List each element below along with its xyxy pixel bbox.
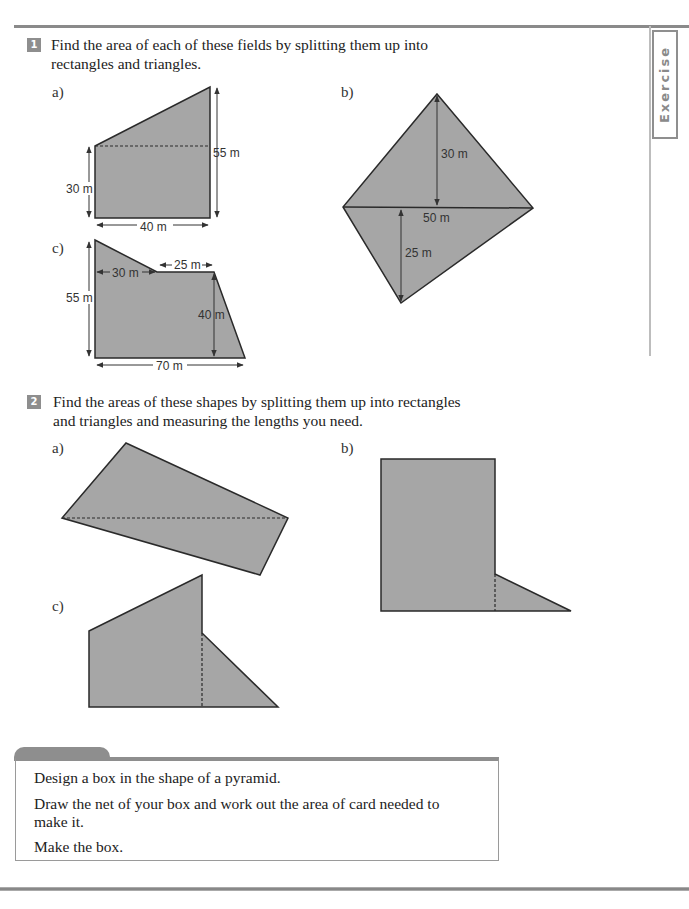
q1c-top-middle: 25 m: [174, 258, 201, 272]
q1b-bottom-height: 25 m: [405, 246, 432, 260]
q2-part-a-label: a): [52, 440, 64, 457]
design-task-line3: Make the box.: [34, 837, 123, 856]
q1b-diagonal: 50 m: [423, 211, 450, 225]
q2b-shape: [381, 459, 571, 611]
q1a-shape: [60, 87, 217, 232]
q2-part-b-label: b): [341, 440, 354, 457]
q1a-base: 40 m: [140, 220, 167, 234]
design-task-box: Design a box in the shape of a pyramid. …: [15, 757, 499, 861]
q2a-shape: [62, 443, 288, 575]
q1c-base: 70 m: [156, 359, 183, 373]
q2c-shape: [89, 575, 278, 707]
design-task-line1: Design a box in the shape of a pyramid.: [34, 768, 281, 787]
q1a-left-height: 30 m: [66, 182, 93, 196]
q1c-right-height: 40 m: [198, 308, 225, 322]
design-task-line2a: Draw the net of your box and work out th…: [34, 794, 439, 813]
q1c-left-height: 55 m: [66, 291, 93, 305]
question-2-text-line2: and triangles and measuring the lengths …: [53, 411, 363, 430]
q1c-shape: [62, 240, 245, 372]
q1b-shape: [343, 94, 533, 303]
q2-part-c-label: c): [52, 598, 64, 615]
q1a-right-height: 55 m: [213, 146, 240, 160]
question-2-text-line1: Find the areas of these shapes by splitt…: [53, 392, 461, 411]
question-2-number: 2: [27, 395, 41, 409]
design-task-line2b: make it.: [34, 812, 84, 831]
q1b-top-height: 30 m: [441, 147, 468, 161]
q1c-top-left: 30 m: [112, 266, 139, 280]
bottom-rule: [0, 887, 689, 891]
